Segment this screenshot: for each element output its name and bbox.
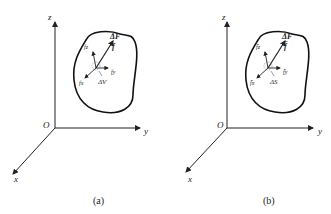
origin-label: O <box>217 120 224 130</box>
x-axis <box>13 128 55 174</box>
y-axis-label: y <box>143 126 148 136</box>
fy-label: f̄y <box>283 69 288 75</box>
f-label: f <box>112 42 116 51</box>
origin-label: O <box>43 120 50 130</box>
fx-label: f̄x <box>250 80 255 86</box>
caption-a: (a) <box>93 195 104 207</box>
x-axis-label: x <box>13 174 18 184</box>
panel-a: z y x O ΔF f fz fy fx ΔV (a) <box>13 12 148 207</box>
f-label: f̄ <box>284 41 288 51</box>
element-label: ΔS <box>269 78 278 86</box>
z-axis-label: z <box>47 12 52 22</box>
fz-label: f̄z <box>256 44 261 50</box>
force-vectors <box>257 41 285 78</box>
z-axis-label: z <box>221 12 226 22</box>
figure-canvas: z y x O ΔF f fz fy fx ΔV (a) z y x O <box>0 0 331 214</box>
element-label: ΔV <box>97 78 107 86</box>
caption-b: (b) <box>263 195 275 207</box>
fz-label: fz <box>84 44 89 50</box>
fy-label: fy <box>111 69 116 75</box>
delta-f-label: ΔF <box>109 32 121 41</box>
x-axis-label: x <box>187 174 192 184</box>
force-vectors <box>85 41 113 78</box>
panel-b: z y x O ΔF f̄ f̄z f̄y f̄x ΔS (b) <box>186 12 322 207</box>
x-axis <box>186 128 227 172</box>
y-axis-label: y <box>317 126 322 136</box>
fx-label: fx <box>79 80 84 86</box>
delta-f-label: ΔF <box>281 32 293 41</box>
